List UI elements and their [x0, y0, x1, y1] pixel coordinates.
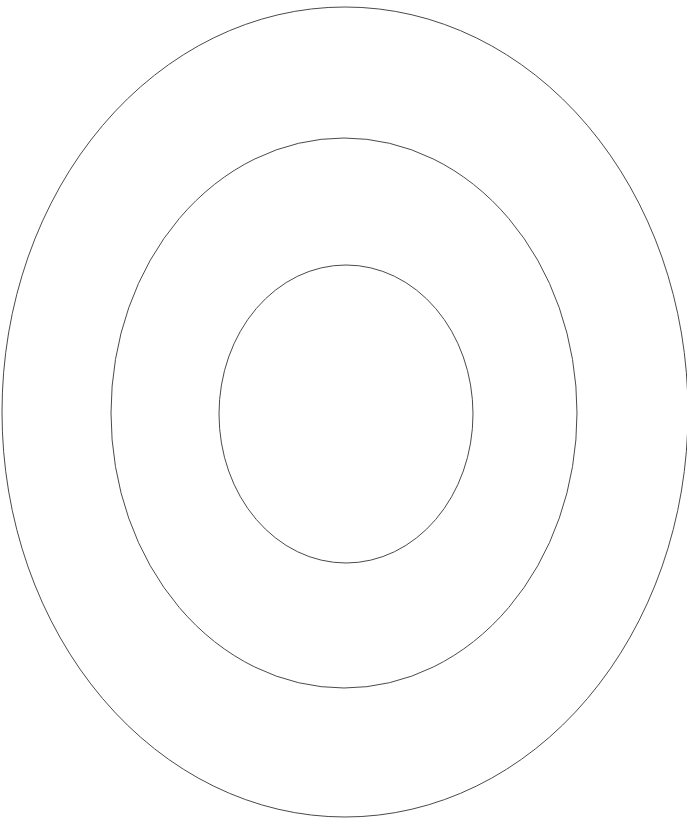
concentric-ellipses-figure — [0, 0, 687, 828]
figure-canvas — [0, 0, 687, 828]
